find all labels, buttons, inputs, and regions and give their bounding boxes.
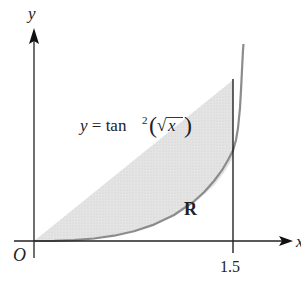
origin-label: O [13, 245, 26, 265]
svg-text:y = tan: y = tan [78, 116, 127, 135]
x-axis-label: x [295, 232, 301, 251]
diagram-canvas: y x O 1.5 R y = tan 2 ( √ x ) [0, 0, 301, 282]
equation-close-paren: ) [184, 112, 192, 138]
equation-var: x [167, 116, 176, 135]
region-label: R [184, 199, 198, 219]
equation-open-paren: ( [149, 112, 157, 138]
x-tick-label: 1.5 [220, 258, 240, 275]
equation-exponent: 2 [142, 114, 148, 126]
equation-radical-icon: √ [157, 116, 167, 135]
equation-y: y [78, 116, 88, 135]
y-axis-label: y [26, 4, 36, 23]
region-r-shading [34, 80, 233, 241]
curve-equation-label: y = tan 2 ( √ x ) [78, 112, 192, 138]
equation-prefix-rest: = tan [88, 116, 127, 135]
